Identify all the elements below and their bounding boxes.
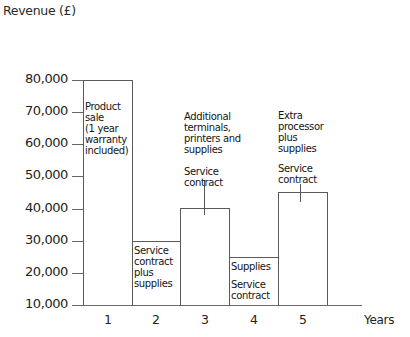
annotation-year-3-service: Service contract [184, 166, 223, 188]
y-tick-40000: 40,000 [6, 200, 68, 215]
y-tick-30000: 30,000 [6, 232, 68, 247]
x-tick-3: 3 [190, 312, 220, 327]
annotation-year-2: Service contract plus supplies [134, 245, 173, 289]
annotation-year-4-supplies: Supplies [231, 261, 271, 272]
y-tick-70000: 70,000 [6, 103, 68, 118]
x-axis-title: Years [364, 313, 394, 327]
y-tick-20000: 20,000 [6, 264, 68, 279]
annotation-year-5-items: Extra processor plus supplies [278, 110, 324, 154]
y-tick-50000: 50,000 [6, 167, 68, 182]
x-axis-line [83, 305, 362, 306]
y-tick-10000: 10,000 [6, 296, 68, 311]
annotation-year-1: Product sale (1 year warranty included) [85, 101, 128, 156]
x-tick-1: 1 [93, 312, 123, 327]
annotation-year-5-service: Service contract [278, 163, 317, 185]
x-tick-2: 2 [141, 312, 171, 327]
annotation-year-4-service: Service contract [231, 279, 270, 301]
y-tick-80000: 80,000 [6, 71, 68, 86]
leader-line-year-5 [300, 184, 301, 202]
y-tick-60000: 60,000 [6, 135, 68, 150]
x-tick-5: 5 [288, 312, 318, 327]
annotation-year-3-items: Additional terminals, printers and suppl… [184, 111, 241, 155]
bar-year-3 [180, 208, 230, 306]
y-axis-title: Revenue (£) [3, 3, 76, 18]
x-tick-4: 4 [239, 312, 269, 327]
bar-year-5 [278, 192, 328, 306]
